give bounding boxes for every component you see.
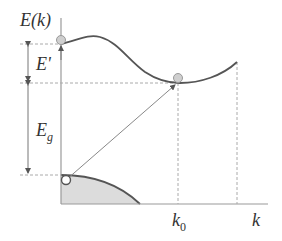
band-structure-diagram: E(k) E' Eg k0 k	[0, 0, 282, 241]
eg-main: E	[35, 120, 47, 140]
electron-at-cb-min	[174, 74, 183, 83]
k0-label: k0	[172, 210, 186, 234]
transition-arrow	[66, 85, 175, 180]
hole-at-vb-max	[62, 176, 71, 185]
k0-subscript: 0	[180, 220, 186, 234]
electron-at-k0-top	[57, 36, 66, 45]
y-axis-label: E(k)	[19, 10, 51, 31]
e-prime-label: E'	[35, 54, 52, 74]
eg-subscript: g	[47, 130, 53, 144]
x-axis-label: k	[252, 210, 261, 230]
valence-band-region	[61, 175, 140, 204]
conduction-band-curve	[61, 36, 237, 83]
eg-label: Eg	[35, 120, 53, 144]
